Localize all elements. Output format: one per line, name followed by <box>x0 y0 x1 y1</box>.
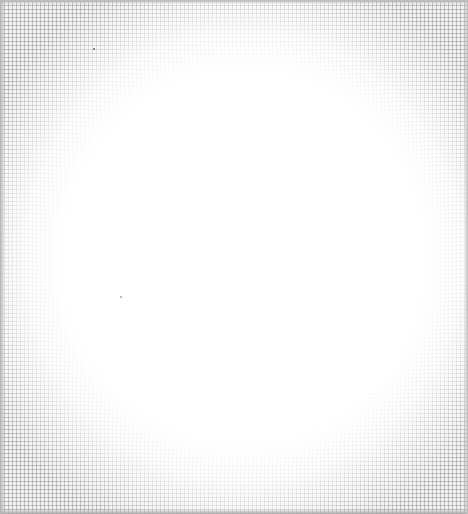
paper-edge-bottom <box>0 509 468 514</box>
paper-speck <box>93 48 95 50</box>
paper-edge-right <box>464 0 468 514</box>
paper-speck <box>120 296 122 298</box>
graph-paper-sheet <box>0 0 468 514</box>
paper-edge-left <box>0 0 5 514</box>
paper-edge-top <box>0 0 468 4</box>
